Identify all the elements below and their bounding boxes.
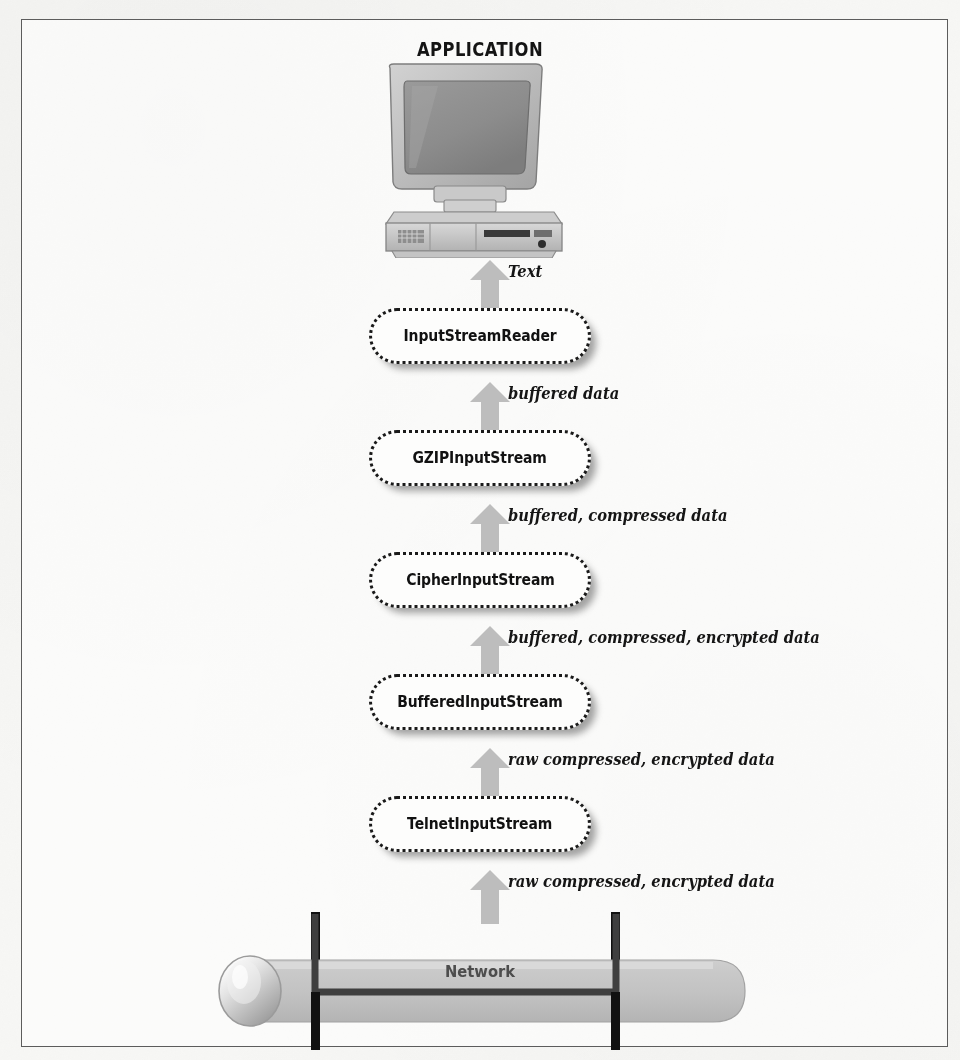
up-block-arrow-icon-3 [468, 502, 512, 554]
stream-node-gzip-input-stream[interactable]: GZIPInputStream [0, 430, 960, 486]
network-illustration [0, 890, 960, 1050]
figure-canvas: APPLICATION [0, 0, 960, 1060]
stream-label: BufferedInputStream [397, 693, 563, 711]
stream-node-input-stream-reader[interactable]: InputStreamReader [0, 308, 960, 364]
stream-box[interactable]: InputStreamReader [369, 308, 591, 364]
stream-box[interactable]: BufferedInputStream [369, 674, 591, 730]
stream-box[interactable]: TelnetInputStream [369, 796, 591, 852]
flow-caption-buffered-compressed: buffered, compressed data [508, 506, 727, 525]
up-block-arrow-icon-5 [468, 746, 512, 798]
stream-label: CipherInputStream [406, 571, 554, 589]
up-block-arrow-icon-2 [468, 380, 512, 432]
stream-node-cipher-input-stream[interactable]: CipherInputStream [0, 552, 960, 608]
stream-box[interactable]: CipherInputStream [369, 552, 591, 608]
page-title: APPLICATION [67, 38, 893, 60]
flow-caption-text: Text [508, 262, 542, 281]
stream-node-buffered-input-stream[interactable]: BufferedInputStream [0, 674, 960, 730]
stream-label: GZIPInputStream [413, 449, 547, 467]
desktop-computer-icon [376, 62, 576, 258]
stream-label: InputStreamReader [403, 327, 556, 345]
network-pipe-icon [0, 890, 960, 1050]
stream-box[interactable]: GZIPInputStream [369, 430, 591, 486]
stream-node-telnet-input-stream[interactable]: TelnetInputStream [0, 796, 960, 852]
flow-caption-buffered-data: buffered data [508, 384, 619, 403]
up-block-arrow-icon-4 [468, 624, 512, 676]
flow-caption-raw-upper: raw compressed, encrypted data [508, 750, 775, 769]
flow-caption-buffered-compressed-encrypted: buffered, compressed, encrypted data [508, 628, 820, 647]
flow-caption-raw-lower: raw compressed, encrypted data [508, 872, 775, 891]
up-block-arrow-icon-1 [468, 258, 512, 310]
stream-label: TelnetInputStream [407, 815, 552, 833]
